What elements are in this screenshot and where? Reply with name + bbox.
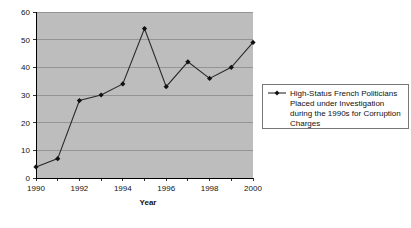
line-chart: 0102030405060 199019921994199619982000 Y… (0, 0, 411, 228)
y-tick-label: 10 (21, 146, 30, 155)
legend-entry-label: High-Status French Politicians (290, 89, 397, 98)
x-axis-title: Year (140, 198, 157, 207)
x-tick-label: 2000 (244, 184, 262, 193)
chart-container: 0102030405060 199019921994199619982000 Y… (0, 0, 411, 228)
x-tick-label: 1998 (201, 184, 219, 193)
y-tick-label: 50 (21, 36, 30, 45)
y-tick-label: 40 (21, 63, 30, 72)
y-tick-label: 0 (26, 174, 31, 183)
y-tick-label: 30 (21, 91, 30, 100)
x-tick-label: 1994 (114, 184, 132, 193)
y-tick-label: 20 (21, 119, 30, 128)
legend-entry-label: Placed under Investigation (290, 99, 384, 108)
x-tick-label: 1996 (157, 184, 175, 193)
x-tick-label: 1992 (71, 184, 89, 193)
chart-legend: High-Status French PoliticiansPlaced und… (262, 84, 408, 128)
y-tick-label: 60 (21, 8, 30, 17)
x-tick-label: 1990 (27, 184, 45, 193)
legend-entry-label: Charges (290, 119, 320, 128)
legend-entry-label: during the 1990s for Corruption (290, 109, 401, 118)
